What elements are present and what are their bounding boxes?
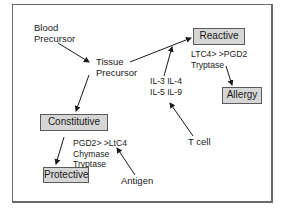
protective-label: Protective — [44, 169, 88, 180]
reactive-mediators-label: LTC4> >PGD2 Tryptase — [191, 49, 247, 70]
allergy-box: Allergy — [222, 87, 262, 104]
tissue-precursor-line-2: Precursor — [96, 67, 137, 78]
reactive-mediator-line-2: Tryptase — [191, 60, 247, 71]
blood-precursor-label: Blood Precursor — [34, 22, 75, 44]
arrow-tcell-to-cytokines — [170, 103, 193, 136]
constitutive-mediator-line-2: Chymase — [73, 149, 127, 160]
constitutive-mediator-line-1: PGD2> >LtC4 — [73, 138, 127, 149]
constitutive-box: Constitutive — [40, 114, 108, 131]
tissue-precursor-line-1: Tissue — [96, 56, 137, 67]
arrow-blood-to-tissue — [58, 43, 89, 62]
cytokines-line-1: IL-3 IL-4 — [150, 76, 182, 87]
blood-precursor-line-2: Precursor — [34, 33, 75, 44]
t-cell-label: T cell — [188, 136, 211, 147]
antigen-label: Antigen — [121, 175, 153, 186]
cytokines-line-2: IL-5 IL-9 — [150, 87, 182, 98]
arrow-tissue-to-constitutive — [76, 75, 89, 111]
allergy-label: Allergy — [227, 89, 258, 100]
blood-precursor-line-1: Blood — [34, 22, 75, 33]
reactive-mediator-line-1: LTC4> >PGD2 — [191, 49, 247, 60]
tissue-precursor-label: Tissue Precursor — [96, 56, 137, 78]
reactive-box: Reactive — [193, 28, 245, 45]
arrow-tissue-to-reactive — [130, 38, 191, 62]
constitutive-label: Constitutive — [48, 116, 100, 127]
cytokines-label: IL-3 IL-4 IL-5 IL-9 — [150, 76, 182, 97]
reactive-label: Reactive — [200, 30, 239, 41]
arrow-cytokines-to-edge — [164, 47, 172, 76]
constitutive-mediators-label: PGD2> >LtC4 Chymase Tryptase — [73, 138, 127, 170]
arrow-constitutive-to-protective — [56, 137, 64, 164]
protective-box: Protective — [43, 167, 89, 183]
